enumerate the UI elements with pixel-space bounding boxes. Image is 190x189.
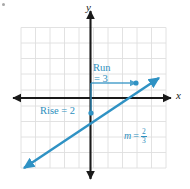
slope-equals-sign: = bbox=[133, 131, 139, 142]
run-annotation-line1: Run bbox=[93, 62, 111, 73]
slope-variable: m bbox=[124, 131, 131, 142]
x-axis-label: x bbox=[176, 90, 181, 102]
point-y-intercept bbox=[88, 110, 93, 115]
y-axis-label: y bbox=[86, 2, 91, 14]
slope-annotation: m = 2 3 bbox=[124, 128, 147, 145]
slope-illustration-figure: y x Run = 3 Rise = 2 m = 2 3 bbox=[0, 0, 190, 189]
slope-denominator: 3 bbox=[141, 137, 147, 145]
run-annotation-line2: = 3 bbox=[93, 73, 111, 84]
run-annotation: Run = 3 bbox=[93, 62, 111, 84]
coordinate-plane-graphic bbox=[0, 0, 190, 189]
slope-numerator: 2 bbox=[141, 128, 147, 136]
point-second bbox=[133, 80, 138, 85]
rise-annotation: Rise = 2 bbox=[40, 105, 75, 116]
slope-fraction: 2 3 bbox=[141, 128, 147, 145]
